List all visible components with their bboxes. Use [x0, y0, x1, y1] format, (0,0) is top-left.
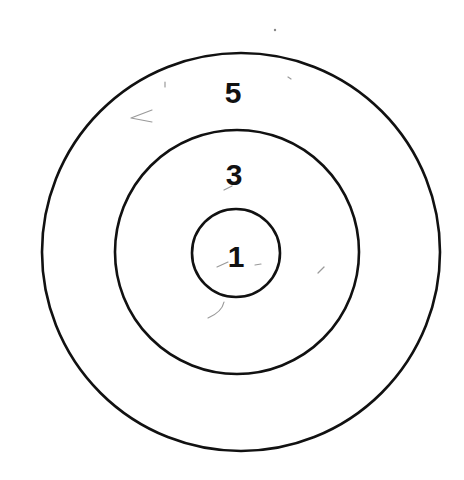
- middle-ring-label: 3: [226, 158, 243, 191]
- inner-ring-label: 1: [228, 240, 245, 273]
- outer-ring-label: 5: [225, 76, 242, 109]
- target-diagram: 5 3 1: [0, 0, 464, 480]
